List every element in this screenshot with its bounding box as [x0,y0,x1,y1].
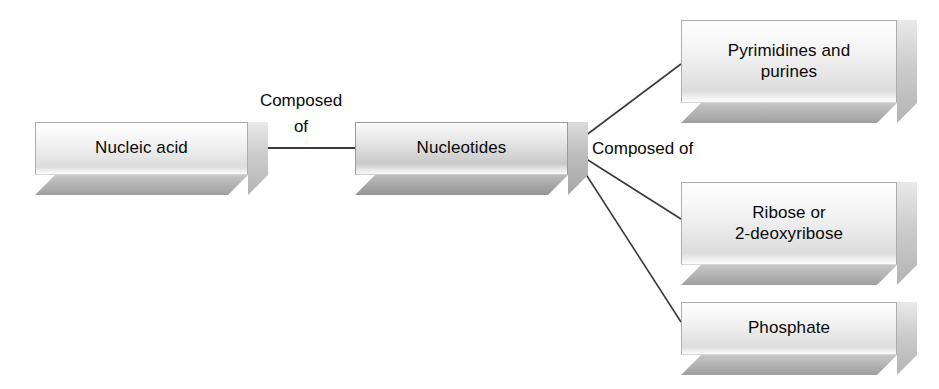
node-nucleotides-side-face [568,122,588,195]
node-ribose-or-2-deoxyribose-label: Ribose or 2-deoxyribose [681,182,897,265]
node-nucleic-acid[interactable]: Nucleic acid [35,122,268,195]
node-nucleic-acid-bottom-face [35,175,248,195]
diagram-canvas: Nucleic acid Nucleotides Pyrimidines and… [0,0,939,389]
node-pyrimidines-and-purines-side-face [897,20,917,123]
edge-label-composed-of-primary: Composed of [236,88,366,139]
node-nucleic-acid-label: Nucleic acid [35,122,248,175]
node-nucleotides-label: Nucleotides [355,122,568,175]
node-phosphate-bottom-face [681,355,897,375]
node-pyrimidines-and-purines-bottom-face [681,103,897,123]
node-pyrimidines-and-purines[interactable]: Pyrimidines and purines [681,20,917,123]
node-phosphate[interactable]: Phosphate [681,302,917,375]
node-nucleotides-bottom-face [355,175,568,195]
node-pyrimidines-and-purines-label: Pyrimidines and purines [681,20,897,103]
node-nucleotides[interactable]: Nucleotides [355,122,588,195]
node-phosphate-side-face [897,302,917,375]
node-ribose-or-2-deoxyribose-side-face [897,182,917,285]
edge-label-composed-of-secondary: Composed of [592,136,742,162]
node-ribose-or-2-deoxyribose-bottom-face [681,265,897,285]
node-phosphate-label: Phosphate [681,302,897,355]
node-ribose-or-2-deoxyribose[interactable]: Ribose or 2-deoxyribose [681,182,917,285]
